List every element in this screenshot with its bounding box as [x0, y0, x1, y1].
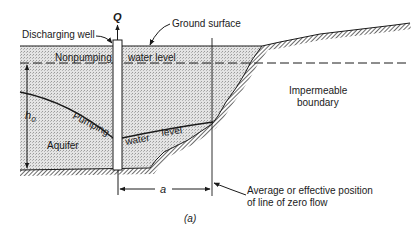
discharging-well-label: Discharging well [22, 29, 95, 40]
nonpumping-label: Nonpumping [55, 52, 112, 63]
figure-caption: (a) [184, 213, 196, 224]
zero-flow-leader [214, 183, 246, 195]
ground-surface-label: Ground surface [172, 18, 241, 29]
aquifer-diagram: Q Discharging well Ground surface Nonpum… [0, 0, 417, 237]
well-leader [96, 36, 112, 43]
ground-leader [150, 24, 170, 45]
water-level-label: water level [127, 52, 176, 63]
distance-a-label: a [160, 183, 166, 195]
zero-flow-label-2: of line of zero flow [247, 197, 328, 208]
zero-flow-label-1: Average or effective position [247, 185, 373, 196]
discharging-well [113, 40, 122, 170]
discharge-label: Q [113, 11, 122, 23]
boundary-label: boundary [297, 97, 339, 108]
aquifer-label: Aquifer [47, 140, 79, 151]
impermeable-label: Impermeable [289, 85, 348, 96]
